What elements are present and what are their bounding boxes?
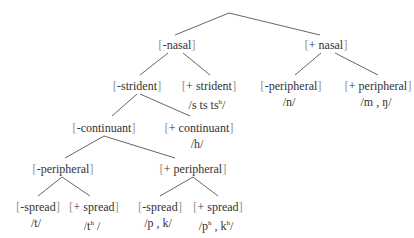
phoneme-set: /ph , kh/	[199, 216, 234, 233]
bracket-close: ]	[229, 120, 233, 135]
feature-node-plus-spread-pk: [+ spread]	[193, 200, 243, 214]
bracket-close: ]	[222, 161, 226, 176]
phoneme-text: /t	[84, 219, 91, 233]
phoneme-set: /p , k/	[144, 216, 172, 230]
feature-label: -strident	[117, 79, 157, 93]
bracket-close: ]	[232, 78, 236, 93]
feature-label: -spread	[20, 200, 55, 214]
tree-edge	[62, 177, 90, 196]
bracket-close: ]	[191, 37, 195, 52]
tree-edge	[175, 13, 229, 35]
feature-node-plus-nasal: [+ nasal]	[304, 38, 347, 52]
phoneme-text: /h/	[191, 137, 204, 151]
phoneme-text: /p	[199, 219, 208, 233]
tree-edge	[193, 177, 218, 196]
phoneme-text: /m , ŋ/	[361, 95, 392, 109]
feature-label: -peripheral	[265, 79, 318, 93]
feature-label: + nasal	[309, 38, 343, 52]
feature-node-plus-continuant: [+ continuant]	[164, 121, 233, 135]
feature-label: -nasal	[163, 38, 192, 52]
feature-label: -spread	[142, 200, 177, 214]
feature-node-minus-peripheral-oral: [-peripheral]	[32, 162, 93, 176]
tree-edge	[140, 94, 190, 116]
phoneme-text: /p , k/	[144, 216, 172, 230]
bracket-close: ]	[89, 161, 93, 176]
tree-edge	[104, 136, 175, 158]
tree-edge	[295, 53, 321, 75]
phoneme-text: /	[230, 219, 233, 233]
phoneme-text: /	[222, 98, 225, 112]
feature-label: -continuant	[77, 121, 132, 135]
feature-node-minus-nasal: [-nasal]	[158, 38, 195, 52]
feature-node-minus-peripheral-nasal: [-peripheral]	[260, 79, 321, 93]
phoneme-set: /h/	[191, 137, 204, 151]
bracket-close: ]	[239, 199, 243, 214]
feature-node-plus-peripheral-nasal: [+ peripheral]	[344, 79, 411, 93]
feature-node-minus-strident: [-strident]	[113, 79, 162, 93]
bracket-close: ]	[407, 78, 411, 93]
feature-label: + continuant	[169, 121, 229, 135]
phoneme-set: /th /	[84, 216, 101, 233]
tree-edge	[38, 177, 62, 196]
bracket-close: ]	[131, 120, 135, 135]
phoneme-text: /n/	[283, 95, 296, 109]
tree-edge	[112, 94, 137, 116]
feature-label: + spread	[197, 200, 238, 214]
tree-edge	[183, 53, 210, 75]
feature-node-minus-continuant: [-continuant]	[72, 121, 135, 135]
bracket-close: ]	[317, 78, 321, 93]
phoneme-set: /t/	[31, 216, 41, 230]
phoneme-set: /n/	[283, 95, 296, 109]
tree-edge	[229, 13, 320, 35]
tree-edge	[140, 53, 168, 75]
phoneme-text: , k	[212, 219, 227, 233]
phoneme-text: /	[94, 219, 100, 233]
feature-label: -peripheral	[37, 162, 90, 176]
feature-node-minus-spread-pk: [-spread]	[138, 200, 182, 214]
tree-edge	[65, 136, 104, 158]
feature-label: + strident	[186, 79, 232, 93]
phoneme-text: /t/	[31, 216, 41, 230]
bracket-close: ]	[157, 78, 161, 93]
bracket-close: ]	[178, 199, 182, 214]
phoneme-text: /s ts ts	[189, 98, 219, 112]
feature-node-plus-peripheral-oral: [+ peripheral]	[159, 162, 226, 176]
phoneme-set: /m , ŋ/	[361, 95, 392, 109]
feature-node-plus-spread-t: [+ spread]	[69, 200, 119, 214]
feature-label: + peripheral	[349, 79, 407, 93]
phoneme-set: /s ts tsh/	[189, 95, 226, 112]
bracket-close: ]	[56, 199, 60, 214]
tree-edge	[160, 177, 193, 196]
feature-node-plus-strident: [+ strident]	[182, 79, 236, 93]
bracket-close: ]	[343, 37, 347, 52]
feature-tree-diagram: [-nasal][+ nasal][-strident][+ strident]…	[0, 0, 414, 238]
feature-label: + spread	[73, 200, 114, 214]
feature-label: + peripheral	[164, 162, 222, 176]
feature-node-minus-spread-t: [-spread]	[16, 200, 60, 214]
tree-edge	[335, 53, 378, 75]
bracket-close: ]	[115, 199, 119, 214]
